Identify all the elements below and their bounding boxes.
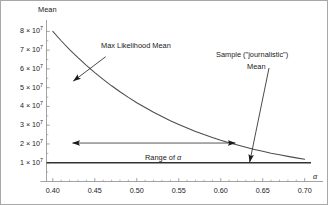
axes-group <box>41 20 324 182</box>
annotation-arrows-group <box>73 57 269 162</box>
chart-figure: Mean α 1 × 1072 × 1073 × 1074 × 1075 × 1… <box>0 0 328 205</box>
plot-canvas <box>0 0 328 205</box>
annotation-arrow-sample-journalistic-mean <box>250 68 269 162</box>
series-max-likelihood-mean-curve <box>53 31 305 159</box>
